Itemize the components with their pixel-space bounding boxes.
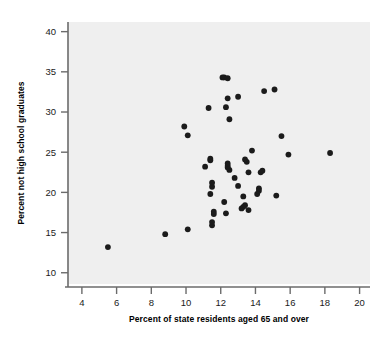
data-point xyxy=(235,94,241,100)
x-tick-label: 10 xyxy=(181,297,192,308)
data-point xyxy=(185,226,191,232)
data-point xyxy=(209,219,215,225)
data-point xyxy=(207,191,213,197)
x-tick-label: 8 xyxy=(149,297,154,308)
data-point xyxy=(256,185,262,191)
data-point xyxy=(259,168,265,174)
chart-canvas: 10152025303540 468101214161820 Percent o… xyxy=(0,0,391,340)
data-point xyxy=(246,207,252,213)
data-point xyxy=(207,156,213,162)
plot-area-background xyxy=(68,22,370,284)
data-point xyxy=(242,202,248,208)
data-point xyxy=(162,231,168,237)
y-tick-label: 20 xyxy=(45,187,56,198)
y-tick-label: 25 xyxy=(45,147,56,158)
data-point xyxy=(235,183,241,189)
data-point xyxy=(209,180,215,186)
data-point xyxy=(223,210,229,216)
data-point xyxy=(249,148,255,154)
x-tick-label: 16 xyxy=(285,297,296,308)
data-point xyxy=(206,105,212,111)
y-tick-label: 40 xyxy=(45,26,56,37)
data-point xyxy=(279,133,285,139)
data-point xyxy=(105,244,111,250)
data-point xyxy=(286,152,292,158)
x-tick-label: 12 xyxy=(215,297,226,308)
data-point xyxy=(246,169,252,175)
x-tick-label: 6 xyxy=(114,297,119,308)
x-tick-label: 4 xyxy=(79,297,84,308)
y-tick-label: 10 xyxy=(45,267,56,278)
x-axis-ticks: 468101214161820 xyxy=(79,287,365,308)
data-point xyxy=(272,87,278,93)
data-point xyxy=(223,104,229,110)
x-tick-label: 18 xyxy=(320,297,331,308)
data-point xyxy=(232,175,238,181)
y-tick-label: 30 xyxy=(45,106,56,117)
x-tick-label: 14 xyxy=(250,297,261,308)
scatter-plot-figure: 10152025303540 468101214161820 Percent o… xyxy=(0,0,391,340)
data-point xyxy=(240,194,246,200)
data-point xyxy=(225,95,231,101)
data-point xyxy=(211,209,217,215)
y-axis-title: Percent not high school graduates xyxy=(16,81,26,224)
y-tick-label: 15 xyxy=(45,227,56,238)
data-point xyxy=(221,199,227,205)
data-point xyxy=(227,116,233,122)
data-point xyxy=(202,164,208,170)
data-point xyxy=(327,150,333,156)
data-point xyxy=(185,132,191,138)
x-axis-title: Percent of state residents aged 65 and o… xyxy=(129,314,310,324)
data-point xyxy=(181,124,187,130)
data-point xyxy=(273,193,279,199)
data-point xyxy=(225,75,231,81)
y-tick-label: 35 xyxy=(45,66,56,77)
y-axis-ticks: 10152025303540 xyxy=(45,26,68,278)
data-point xyxy=(225,161,231,167)
x-tick-label: 20 xyxy=(354,297,365,308)
data-point xyxy=(261,88,267,94)
data-point xyxy=(242,157,248,163)
